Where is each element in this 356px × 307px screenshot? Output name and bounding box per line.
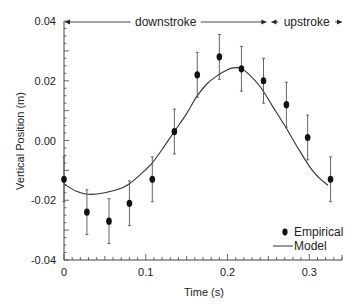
y-tick-label: -0.02 <box>31 194 56 206</box>
x-tick-label: 0.1 <box>138 266 153 278</box>
data-point <box>261 77 267 84</box>
y-tick-label: 0.00 <box>35 135 56 147</box>
data-point <box>284 101 290 108</box>
data-point <box>84 209 90 216</box>
arrowhead-icon <box>65 20 70 25</box>
empirical-point <box>261 58 267 103</box>
empirical-point <box>84 190 90 235</box>
empirical-point <box>284 82 290 127</box>
empirical-point <box>106 199 112 244</box>
x-axis-label: Time (s) <box>184 286 224 298</box>
data-point <box>150 176 156 183</box>
empirical-point <box>305 115 311 160</box>
arrowhead-icon <box>337 20 342 25</box>
data-point <box>305 134 311 141</box>
data-point <box>127 200 133 207</box>
y-axis-label: Vertical Position (m) <box>14 92 26 190</box>
data-point <box>106 218 112 225</box>
empirical-point <box>150 157 156 202</box>
data-point <box>239 65 245 72</box>
empirical-point <box>239 46 245 91</box>
model-line <box>64 68 328 195</box>
empirical-point <box>172 109 178 154</box>
empirical-point <box>127 181 133 226</box>
annotation-label: upstroke <box>284 15 330 29</box>
x-tick-label: 0.3 <box>302 266 317 278</box>
x-tick-label: 0 <box>61 266 67 278</box>
x-tick-label: 0.2 <box>220 266 235 278</box>
legend-empirical-label: Empirical <box>294 225 343 239</box>
y-tick-label: -0.04 <box>31 254 56 266</box>
arrowhead-icon <box>271 20 276 25</box>
data-point <box>217 53 223 60</box>
annotation-downstroke: downstroke <box>65 15 266 29</box>
empirical-point <box>61 157 67 202</box>
annotation-upstroke: upstroke <box>271 15 342 29</box>
arrowhead-icon <box>261 20 266 25</box>
chart: 00.10.20.30.040.020.00-0.02-0.04 downstr… <box>0 0 356 307</box>
empirical-point <box>194 52 200 97</box>
y-tick-label: 0.04 <box>35 15 56 27</box>
data-point <box>61 176 67 183</box>
data-point <box>328 176 334 183</box>
empirical-point <box>328 157 334 202</box>
legend-model-label: Model <box>294 239 327 253</box>
data-point <box>194 71 200 78</box>
tick-labels: 00.10.20.30.040.020.00-0.02-0.04 <box>31 15 317 278</box>
legend-empirical-marker <box>282 229 287 236</box>
legend: Empirical Model <box>273 225 343 253</box>
y-tick-label: 0.02 <box>35 75 56 87</box>
annotations: downstrokeupstroke <box>65 15 342 29</box>
model-layer <box>64 68 328 195</box>
data-point <box>172 128 178 135</box>
annotation-label: downstroke <box>135 15 197 29</box>
